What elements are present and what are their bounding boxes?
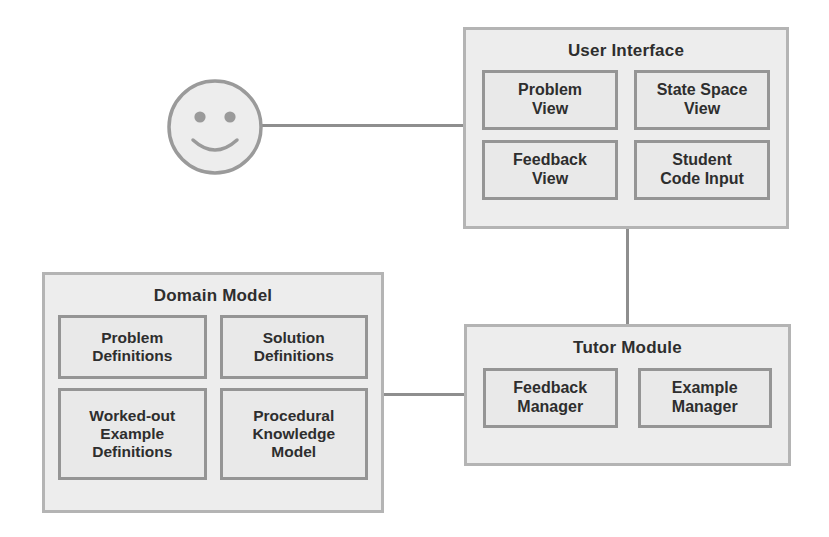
- component-problem-definitions[interactable]: Problem Definitions: [58, 315, 207, 379]
- module-title-tutor-module: Tutor Module: [573, 338, 682, 358]
- module-domain-model[interactable]: Domain Model Problem Definitions Solutio…: [42, 272, 384, 513]
- component-problem-view[interactable]: Problem View: [482, 70, 618, 130]
- connector-user-interface-to-tutor-module: [626, 227, 629, 326]
- smiley-face-icon: [166, 78, 264, 176]
- component-grid-domain-model: Problem Definitions Solution Definitions…: [58, 315, 368, 480]
- module-user-interface[interactable]: User Interface Problem View State Space …: [463, 27, 789, 229]
- module-title-domain-model: Domain Model: [154, 286, 273, 306]
- component-example-manager[interactable]: Example Manager: [638, 368, 773, 428]
- connector-user-to-user-interface: [262, 124, 465, 127]
- component-feedback-view[interactable]: Feedback View: [482, 140, 618, 200]
- connector-domain-model-to-tutor-module: [382, 393, 466, 396]
- component-procedural-knowledge-model[interactable]: Procedural Knowledge Model: [220, 388, 369, 480]
- module-tutor-module[interactable]: Tutor Module Feedback Manager Example Ma…: [464, 324, 791, 466]
- component-worked-out-example-definitions[interactable]: Worked-out Example Definitions: [58, 388, 207, 480]
- component-student-code-input[interactable]: Student Code Input: [634, 140, 770, 200]
- diagram-canvas: User Interface Problem View State Space …: [0, 0, 829, 537]
- component-grid-tutor-module: Feedback Manager Example Manager: [483, 368, 772, 428]
- component-grid-user-interface: Problem View State Space View Feedback V…: [482, 70, 770, 200]
- component-state-space-view[interactable]: State Space View: [634, 70, 770, 130]
- component-solution-definitions[interactable]: Solution Definitions: [220, 315, 369, 379]
- component-feedback-manager[interactable]: Feedback Manager: [483, 368, 618, 428]
- module-title-user-interface: User Interface: [568, 41, 684, 61]
